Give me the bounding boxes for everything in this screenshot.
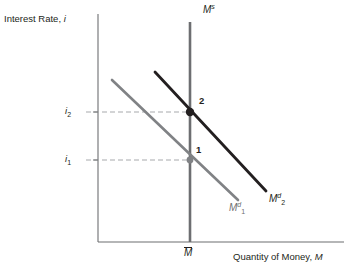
money-demand-1-curve-label: Md1 bbox=[229, 203, 245, 213]
x-axis-title: Quantity of Money, M bbox=[233, 252, 323, 262]
money-demand-2-curve-label: Md2 bbox=[269, 194, 285, 204]
money-demand-1-label-sup: d bbox=[237, 201, 241, 208]
equilibrium-point-1 bbox=[187, 157, 194, 164]
money-market-diagram: Interest Rate, i Quantity of Money, M i2… bbox=[0, 0, 361, 277]
x-tick-label-mbar-base: M bbox=[184, 247, 192, 259]
money-supply-curve-label: Ms bbox=[203, 5, 215, 15]
x-tick-label-mbar: M bbox=[184, 247, 192, 259]
money-supply-label-sup: s bbox=[211, 3, 215, 10]
y-tick-label-i1: i1 bbox=[65, 154, 71, 164]
x-axis-title-text: Quantity of Money, bbox=[233, 251, 315, 262]
equilibrium-label-1: 1 bbox=[196, 145, 201, 155]
y-axis-title: Interest Rate, i bbox=[4, 14, 66, 24]
chart-canvas bbox=[0, 0, 361, 277]
money-demand-2-label-sub: 2 bbox=[281, 199, 285, 206]
y-axis-title-text: Interest Rate, bbox=[4, 13, 64, 24]
money-demand-1-label-sub: 1 bbox=[241, 208, 245, 215]
y-axis-title-symbol: i bbox=[64, 13, 66, 24]
y-tick-label-i1-sub: 1 bbox=[67, 159, 71, 166]
x-axis-title-symbol: M bbox=[315, 251, 323, 262]
equilibrium-point-2 bbox=[186, 108, 194, 116]
y-tick-label-i2-sub: 2 bbox=[67, 111, 71, 118]
money-demand-2-label-sup: d bbox=[277, 192, 281, 199]
y-tick-label-i2: i2 bbox=[65, 106, 71, 116]
equilibrium-label-2: 2 bbox=[199, 96, 204, 106]
